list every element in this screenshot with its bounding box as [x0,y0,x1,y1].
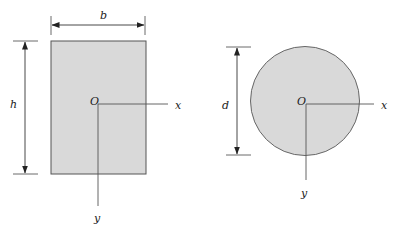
cross-sections-diagram: b h O x y d O x y [0,0,397,238]
height-dimension: h [10,41,38,174]
width-label: b [100,9,107,22]
height-label: h [10,98,17,111]
diameter-label: d [222,99,229,112]
width-dimension: b [51,9,145,35]
circle-section: d O x y [222,47,388,201]
y-axis-label: y [93,212,101,225]
y-axis-label: y [300,187,308,200]
origin-label: O [297,95,306,108]
x-axis-label: x [381,99,388,112]
diameter-dimension: d [222,47,251,155]
rectangle-section: b h O x y [10,9,182,225]
x-axis-label: x [175,99,182,112]
